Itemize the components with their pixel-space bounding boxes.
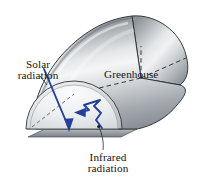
label-solar-line2: radiation	[4, 70, 72, 81]
label-infrared-radiation: Infrared radiation	[68, 152, 148, 175]
label-greenhouse: Greenhouse	[104, 69, 168, 80]
label-infrared-line2: radiation	[68, 163, 148, 174]
label-solar-radiation: Solar radiation	[4, 59, 72, 82]
label-greenhouse-line1: Greenhouse	[104, 69, 168, 80]
ground-slab	[28, 129, 137, 137]
greenhouse-figure: Solar radiation Greenhouse Infrared radi…	[0, 0, 199, 180]
